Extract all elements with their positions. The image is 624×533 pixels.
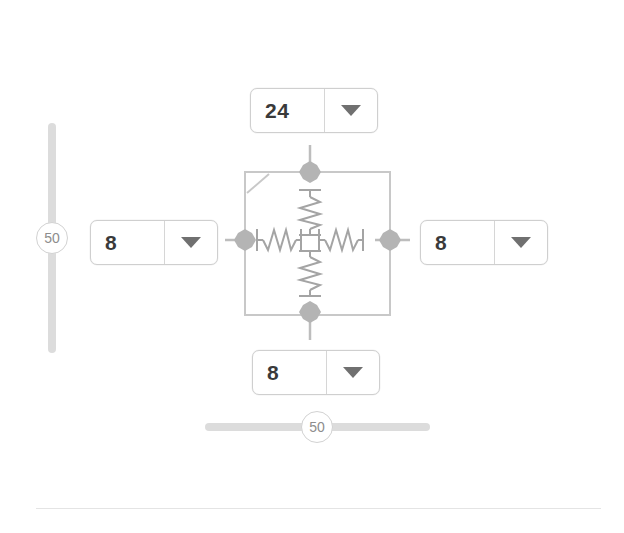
left-margin-spinbox[interactable]: 8 — [90, 220, 218, 265]
right-margin-dropdown-button[interactable] — [495, 221, 547, 264]
right-margin-spinbox[interactable]: 8 — [420, 220, 548, 265]
bottom-handle — [299, 301, 321, 323]
top-spring — [299, 190, 321, 235]
right-spring — [319, 229, 363, 251]
spacing-diagram-svg — [225, 145, 410, 340]
chevron-down-icon — [511, 237, 531, 248]
diagram-handles[interactable] — [234, 161, 401, 323]
vertical-slider-handle[interactable]: 50 — [36, 222, 68, 254]
right-handle — [379, 229, 401, 251]
bottom-margin-spinbox[interactable]: 8 — [252, 350, 380, 395]
top-left-corner-marker — [247, 174, 269, 193]
right-margin-value[interactable]: 8 — [421, 221, 494, 264]
bottom-margin-dropdown-button[interactable] — [327, 351, 379, 394]
left-handle — [234, 229, 256, 251]
spacing-editor-canvas: 50 50 — [0, 0, 624, 533]
vertical-spacing-slider[interactable]: 50 — [48, 123, 56, 353]
chevron-down-icon — [181, 237, 201, 248]
horizontal-slider-value: 50 — [309, 419, 325, 435]
chevron-down-icon — [343, 367, 363, 378]
chevron-down-icon — [341, 105, 361, 116]
top-margin-dropdown-button[interactable] — [325, 89, 377, 132]
left-spring — [257, 229, 301, 251]
bottom-divider — [36, 508, 601, 509]
horizontal-spacing-slider[interactable]: 50 — [205, 423, 430, 431]
spacing-spring-diagram — [225, 145, 410, 340]
top-handle — [299, 161, 321, 183]
left-margin-dropdown-button[interactable] — [165, 221, 217, 264]
widget-bounds-rectangle — [245, 172, 390, 315]
vertical-slider-value: 50 — [44, 230, 60, 246]
left-margin-value[interactable]: 8 — [91, 221, 164, 264]
top-margin-spinbox[interactable]: 24 — [250, 88, 378, 133]
bottom-spring — [299, 251, 321, 296]
bottom-margin-value[interactable]: 8 — [253, 351, 326, 394]
top-margin-value[interactable]: 24 — [251, 89, 324, 132]
horizontal-slider-handle[interactable]: 50 — [301, 411, 333, 443]
